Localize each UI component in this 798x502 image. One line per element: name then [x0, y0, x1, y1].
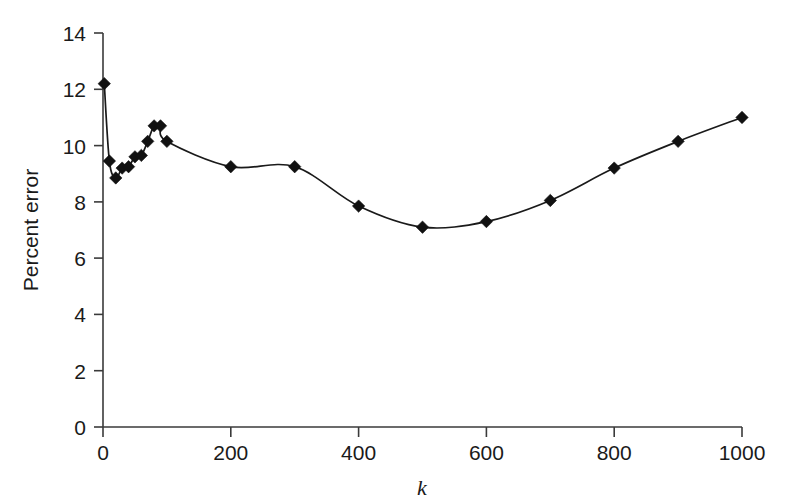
y-tick-label: 12 — [63, 78, 86, 101]
data-point — [289, 160, 301, 172]
chart-figure: 14 12 10 8 6 4 2 0 0 200 400 600 800 100… — [0, 0, 798, 502]
data-series-percent-error — [98, 77, 748, 233]
y-axis-tick-labels: 14 12 10 8 6 4 2 0 — [63, 22, 87, 439]
data-point — [416, 221, 428, 233]
x-tick-label: 0 — [97, 441, 109, 464]
data-point — [480, 215, 492, 227]
data-point — [608, 162, 620, 174]
y-tick-label: 6 — [74, 247, 86, 270]
x-tick-label: 1000 — [719, 441, 766, 464]
data-point — [103, 155, 115, 167]
data-point — [98, 77, 110, 89]
data-point — [672, 135, 684, 147]
data-point — [544, 194, 556, 206]
y-axis-ticks — [94, 33, 103, 427]
y-tick-label: 0 — [74, 416, 86, 439]
x-axis-title: k — [417, 475, 428, 500]
data-point — [142, 135, 154, 147]
data-point — [225, 160, 237, 172]
y-axis-title: Percent error — [19, 169, 42, 292]
x-axis-ticks — [103, 427, 742, 437]
y-tick-label: 4 — [74, 303, 86, 326]
x-axis-tick-labels: 0 200 400 600 800 1000 — [97, 441, 765, 464]
y-tick-label: 8 — [74, 191, 86, 214]
data-point — [736, 111, 748, 123]
x-tick-label: 800 — [597, 441, 632, 464]
series-line — [104, 84, 742, 228]
y-tick-label: 10 — [63, 135, 86, 158]
x-tick-label: 400 — [341, 441, 376, 464]
y-tick-label: 2 — [74, 360, 86, 383]
x-tick-label: 200 — [213, 441, 248, 464]
line-chart: 14 12 10 8 6 4 2 0 0 200 400 600 800 100… — [0, 0, 798, 502]
data-point — [352, 200, 364, 212]
x-tick-label: 600 — [469, 441, 504, 464]
y-tick-label: 14 — [63, 22, 87, 45]
